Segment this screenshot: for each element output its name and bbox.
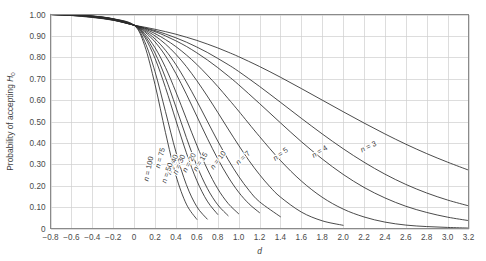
- x-tick-label: 2.4: [379, 233, 391, 242]
- y-tick-label: 0.40: [30, 139, 46, 148]
- y-tick-label: 0: [41, 225, 46, 234]
- y-axis-title-text: Probability of accepting H0: [5, 72, 16, 171]
- x-tick-label: −0.8: [42, 233, 59, 242]
- y-tick-label: 0.60: [30, 96, 46, 105]
- curve-label-10: n = 10n = 10: [208, 149, 228, 171]
- x-tick-label: 3.2: [463, 233, 475, 242]
- y-tick-label: 0.70: [30, 75, 46, 84]
- x-tick-label: 2.8: [421, 233, 433, 242]
- x-tick-label: 1.0: [233, 233, 245, 242]
- y-axis-title: Probability of accepting H0: [5, 72, 16, 171]
- chart-svg: −0.8−0.6−0.4−0.200.20.40.60.81.01.21.41.…: [0, 0, 486, 261]
- oc-curve-50: [51, 15, 218, 215]
- x-axis-title: d: [257, 246, 262, 256]
- x-tick-label: 1.4: [275, 233, 287, 242]
- x-tick-label: 3.0: [442, 233, 454, 242]
- x-tick-label: 0.6: [191, 233, 203, 242]
- x-tick-label: −0.4: [84, 233, 101, 242]
- svg-text:n = 7: n = 7: [234, 149, 252, 167]
- x-tick-label: 0: [132, 233, 137, 242]
- x-tick-label: 0.8: [212, 233, 224, 242]
- y-tick-label: 1.00: [30, 11, 46, 20]
- svg-text:n = 3: n = 3: [359, 139, 378, 154]
- svg-text:n = 100: n = 100: [141, 156, 155, 182]
- grid-layer: [51, 15, 470, 230]
- x-tick-label: 1.8: [317, 233, 329, 242]
- x-axis-tick-labels: −0.8−0.6−0.4−0.200.20.40.60.81.01.21.41.…: [42, 233, 474, 242]
- oc-curve-10: [51, 15, 344, 226]
- curve-label-7: n = 7n = 7: [234, 149, 252, 167]
- x-tick-label: 0.2: [149, 233, 161, 242]
- y-tick-label: 0.50: [30, 118, 46, 127]
- x-tick-label: −0.2: [105, 233, 122, 242]
- x-tick-label: 1.2: [254, 233, 266, 242]
- y-tick-label: 0.90: [30, 32, 46, 41]
- oc-curve-40: [51, 15, 229, 216]
- x-tick-label: 0.4: [170, 233, 182, 242]
- x-tick-label: 1.6: [296, 233, 308, 242]
- y-tick-label: 0.10: [30, 203, 46, 212]
- curve-label-100: n = 100n = 100: [141, 156, 155, 182]
- curve-label-3: n = 3n = 3: [359, 139, 378, 154]
- x-tick-label: −0.6: [63, 233, 80, 242]
- y-tick-label: 0.80: [30, 53, 46, 62]
- x-tick-label: 2.0: [337, 233, 349, 242]
- oc-curve-chart: −0.8−0.6−0.4−0.200.20.40.60.81.01.21.41.…: [0, 0, 486, 261]
- oc-curve-20: [51, 15, 260, 213]
- y-tick-label: 0.20: [30, 182, 46, 191]
- svg-text:n = 10: n = 10: [208, 149, 228, 171]
- x-tick-label: 2.6: [400, 233, 412, 242]
- y-tick-label: 0.30: [30, 160, 46, 169]
- x-tick-label: 2.2: [358, 233, 370, 242]
- y-axis-tick-labels: 00.100.200.300.400.500.600.700.800.901.0…: [30, 11, 46, 234]
